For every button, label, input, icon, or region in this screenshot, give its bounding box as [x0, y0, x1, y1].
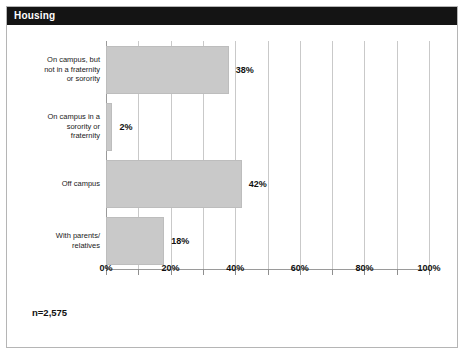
- bar: [106, 103, 112, 151]
- bar-chart: On campus, but not in a fraternity or so…: [7, 25, 457, 347]
- gridline-90: [397, 41, 398, 269]
- bar-value-label: 42%: [249, 179, 267, 189]
- plot-area: 38%2%42%18%: [106, 41, 429, 269]
- gridline-70: [332, 41, 333, 269]
- category-axis-labels: On campus, but not in a fraternity or so…: [7, 41, 100, 269]
- bar: [106, 160, 242, 208]
- x-tick-label: 20%: [162, 263, 180, 273]
- figure-frame: Housing On campus, but not in a fraterni…: [6, 6, 458, 348]
- bar: [106, 46, 229, 94]
- sample-size-annotation: n=2,575: [32, 307, 67, 318]
- category-label: With parents/ relatives: [10, 231, 100, 250]
- x-tick-50: [268, 269, 269, 275]
- bar-value-label: 38%: [236, 65, 254, 75]
- x-tick-label: 80%: [355, 263, 373, 273]
- gridline-60: [300, 41, 301, 269]
- bar-value-label: 2%: [119, 122, 132, 132]
- category-label: On campus, but not in a fraternity or so…: [10, 55, 100, 84]
- x-tick-90: [397, 269, 398, 275]
- category-label: Off campus: [10, 179, 100, 189]
- x-tick-label: 100%: [417, 263, 440, 273]
- gridline-80: [364, 41, 365, 269]
- bar-value-label: 18%: [171, 236, 189, 246]
- gridline-50: [268, 41, 269, 269]
- gridline-40: [235, 41, 236, 269]
- gridline-100: [429, 41, 430, 269]
- page-title: Housing: [14, 10, 55, 22]
- x-tick-10: [138, 269, 139, 275]
- bar: [106, 217, 164, 265]
- x-tick-label: 0%: [99, 263, 112, 273]
- x-tick-label: 60%: [291, 263, 309, 273]
- chart-header-bar: Housing: [7, 7, 457, 25]
- x-tick-label: 40%: [226, 263, 244, 273]
- x-tick-70: [332, 269, 333, 275]
- category-label: On campus in a sorority or fraternity: [10, 112, 100, 141]
- x-tick-30: [203, 269, 204, 275]
